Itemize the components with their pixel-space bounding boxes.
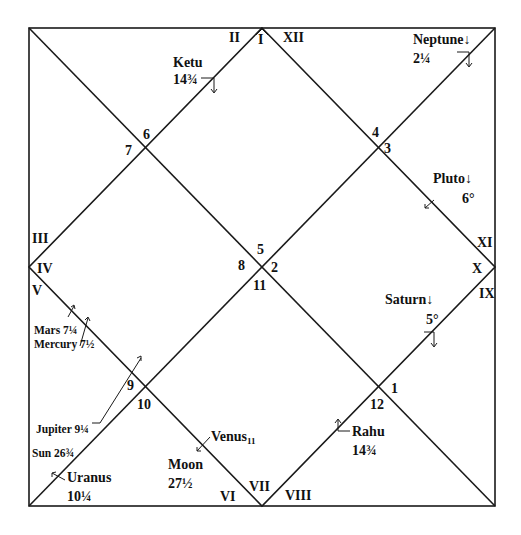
planet-moon-degree: 27½: [168, 477, 193, 491]
sign-number-house-IV: 8: [238, 259, 245, 273]
house-label-IV: IV: [37, 262, 53, 276]
planet-neptune: Neptune↓: [413, 33, 471, 47]
planet-moon: Moon: [168, 458, 203, 472]
sign-number-house-VIII: 12: [370, 398, 384, 412]
planet-pluto: Pluto↓: [433, 172, 472, 186]
planet-neptune-degree: 2¼: [413, 52, 431, 66]
planet-ketu: Ketu: [173, 56, 203, 70]
sign-number-house-I: 5: [257, 243, 264, 257]
planet-mars: Mars 7¼: [34, 325, 77, 337]
house-label-VI: VI: [220, 490, 236, 504]
sign-number-house-VI: 10: [137, 398, 151, 412]
house-label-I: I: [258, 33, 263, 47]
planet-saturn: Saturn↓: [385, 293, 433, 307]
horoscope-chart: [0, 0, 521, 535]
planet-saturn-degree: 5°: [426, 313, 439, 327]
planet-uranus: Uranus: [67, 471, 111, 485]
house-label-XII: XII: [283, 31, 304, 45]
sign-number-house-III: 7: [125, 144, 132, 158]
house-label-VII: VII: [249, 480, 270, 494]
planet-venus-name: Venus: [211, 429, 247, 444]
house-label-XI: XI: [477, 236, 493, 250]
house-label-IX: IX: [479, 287, 495, 301]
sign-number-house-XI: 3: [384, 142, 391, 156]
sign-number-house-VII: 11: [253, 279, 266, 293]
house-label-III: III: [32, 232, 48, 246]
house-label-X: X: [472, 262, 482, 276]
planet-jupiter: Jupiter 9¼: [36, 424, 89, 436]
sign-number-house-II: 6: [143, 128, 150, 142]
planet-pluto-degree: 6°: [462, 192, 475, 206]
sign-number-house-IX: 1: [391, 382, 398, 396]
house-label-VIII: VIII: [285, 489, 311, 503]
sign-number-house-XII: 4: [372, 126, 379, 140]
planet-venus-sub: 11: [247, 436, 256, 446]
planet-venus: Venus11: [211, 430, 256, 446]
planet-rahu: Rahu: [352, 425, 385, 439]
sign-number-house-V: 9: [127, 379, 134, 393]
venus-arrow-icon: [197, 437, 210, 451]
planet-mercury: Mercury 7½: [34, 339, 94, 351]
planet-uranus-degree: 10¼: [67, 490, 92, 504]
uranus-arrow-icon: [52, 473, 65, 480]
planet-ketu-degree: 14¾: [173, 73, 198, 87]
planet-sun: Sun 26¾: [32, 448, 74, 460]
sign-number-house-X: 2: [271, 261, 278, 275]
house-label-V: V: [32, 284, 42, 298]
house-label-II: II: [229, 31, 240, 45]
planet-rahu-degree: 14¾: [352, 444, 377, 458]
